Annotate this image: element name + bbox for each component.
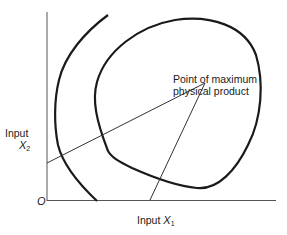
max-product-annotation: Point of maximum physical product (173, 73, 257, 97)
y-axis-label: Input X2 (5, 127, 30, 155)
y-axis-label-text: Input (5, 127, 30, 139)
ridge-line-lower (150, 83, 205, 200)
x-axis-label: Input X1 (137, 214, 175, 230)
y-axis-variable: X2 (5, 139, 30, 155)
origin-label: O (37, 195, 46, 207)
outer-isoquant (55, 15, 108, 201)
annotation-line2: physical product (173, 85, 257, 97)
inner-isoquant-loop (95, 19, 261, 188)
annotation-line1: Point of maximum (173, 73, 257, 85)
